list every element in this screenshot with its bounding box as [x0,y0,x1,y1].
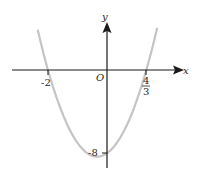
y-intercept-label: -8 [88,147,98,158]
x-intercept-left-label: -2 [41,77,51,88]
parabola-curve [38,28,157,157]
parabola-diagram: y x O -2 4 3 -8 [0,0,199,171]
y-axis-label: y [101,11,108,22]
x-intercept-right-numerator: 4 [143,75,149,86]
x-axis-label: x [183,65,189,76]
origin-label: O [96,72,104,83]
x-intercept-right-denominator: 3 [143,86,149,97]
